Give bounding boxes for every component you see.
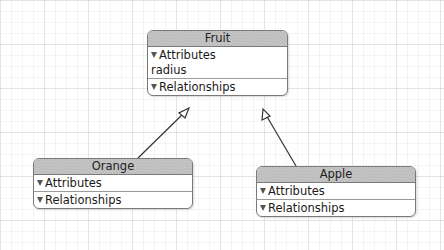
disclosure-triangle-icon[interactable] [37,197,43,203]
attribute-row[interactable]: radius [148,63,287,78]
entity-apple[interactable]: Apple Attributes Relationships [256,166,416,217]
disclosure-triangle-icon[interactable] [151,84,157,90]
attributes-header[interactable]: Attributes [34,175,192,192]
entity-title: Orange [34,159,192,175]
edge-apple-to-fruit[interactable] [262,109,296,166]
relationships-header[interactable]: Relationships [257,200,415,216]
entity-title: Fruit [148,31,287,47]
hollow-arrowhead-icon [262,109,270,120]
attributes-header[interactable]: Attributes [257,183,415,200]
entity-title: Apple [257,167,415,183]
entity-orange[interactable]: Orange Attributes Relationships [33,158,193,209]
disclosure-triangle-icon[interactable] [260,188,266,194]
disclosure-triangle-icon[interactable] [260,205,266,211]
disclosure-triangle-icon[interactable] [37,180,43,186]
relationships-header[interactable]: Relationships [148,79,287,95]
entity-fruit[interactable]: Fruit Attributes radius Relationships [147,30,288,96]
edge-orange-to-fruit[interactable] [138,108,189,158]
attributes-header[interactable]: Attributes [148,47,287,63]
diagram-canvas: Fruit Attributes radius Relationships Or… [0,0,444,250]
disclosure-triangle-icon[interactable] [151,52,157,58]
relationships-header[interactable]: Relationships [34,192,192,208]
